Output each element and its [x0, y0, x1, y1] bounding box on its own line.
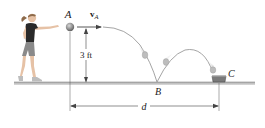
point-b-label: B	[155, 86, 161, 97]
velocity-label: vA	[90, 9, 99, 20]
trajectory-arc-2	[157, 49, 213, 82]
velocity-subscript: A	[94, 13, 99, 20]
height-dimension: 3 ft	[77, 29, 95, 82]
container-c	[212, 76, 226, 83]
point-c-label: C	[228, 68, 235, 79]
velocity-vector-va: vA	[77, 9, 101, 27]
height-label: 3 ft	[80, 50, 93, 60]
distance-dimension: d	[71, 100, 218, 112]
ball-ghost-1	[137, 44, 148, 58]
girl-thrower-figure	[18, 14, 59, 82]
projectile-diagram: 3 ft A vA B C d	[0, 0, 265, 128]
trajectory-arc-1	[103, 27, 157, 82]
ball-ghost-3	[206, 59, 216, 73]
ball-at-a	[66, 23, 74, 31]
point-a-label: A	[64, 8, 72, 20]
